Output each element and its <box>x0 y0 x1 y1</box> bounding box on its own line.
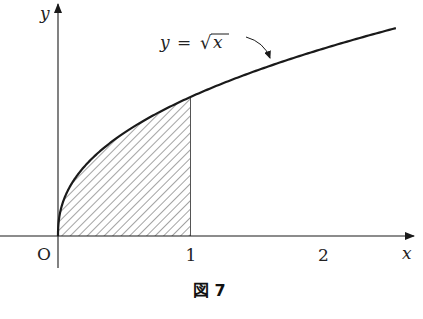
x-tick-label-2: 2 <box>318 245 329 265</box>
y-axis-label: y <box>39 3 50 23</box>
function-label-equals: = <box>177 32 191 52</box>
figure-canvas: y = √ x y x O 12 図 7 <box>0 0 423 319</box>
label-pointer-arrow <box>246 37 270 58</box>
radical-sign: √ <box>200 32 212 53</box>
x-axis-label: x <box>402 243 412 263</box>
shaded-region <box>58 97 191 236</box>
function-label-x: x <box>213 32 223 52</box>
figure-caption: 図 7 <box>193 281 226 300</box>
origin-label: O <box>37 244 51 264</box>
x-tick-label-1: 1 <box>186 245 197 265</box>
function-label-y: y <box>159 32 170 52</box>
